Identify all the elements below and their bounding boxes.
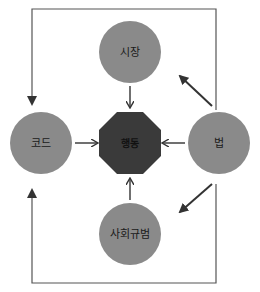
node-code-label: 코드 xyxy=(31,137,51,150)
node-law-label: 법 xyxy=(214,137,224,150)
node-law: 법 xyxy=(188,112,250,174)
node-market-label: 시장 xyxy=(120,46,140,59)
node-norms: 사회규범 xyxy=(99,203,161,265)
edge-law-to-norms xyxy=(180,184,212,212)
regulation-diagram: 시장 코드 법 사회규범 행동 xyxy=(0,0,260,292)
node-norms-label: 사회규범 xyxy=(110,228,150,241)
node-code: 코드 xyxy=(10,112,72,174)
node-behavior-label: 행동 xyxy=(121,137,139,149)
edge-law-to-market xyxy=(180,76,212,106)
node-behavior: 행동 xyxy=(99,112,161,174)
node-market: 시장 xyxy=(99,21,161,83)
